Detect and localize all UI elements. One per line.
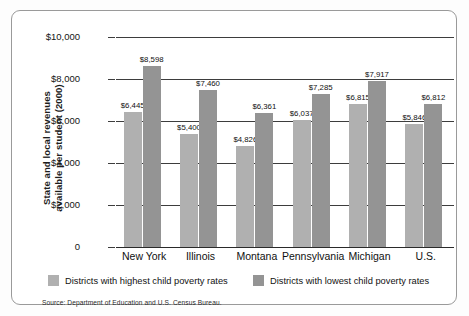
plot-area: 0$2,000$4,000$6,000$8,000$10,000$6,445$8… (116, 37, 454, 247)
bar-value-label: $8,598 (140, 55, 164, 64)
source-note: Source: Department of Education and U.S.… (42, 299, 222, 306)
x-axis-category-label: Michigan (348, 250, 390, 262)
y-axis-tick (108, 163, 115, 164)
y-axis-tick (108, 247, 115, 248)
bar-lowest-poverty[interactable] (255, 113, 273, 247)
bar-highest-poverty[interactable] (180, 134, 198, 247)
y-axis-tick (108, 121, 115, 122)
y-axis-tick-label: $4,000 (20, 157, 80, 168)
bar-value-label: $7,460 (196, 79, 220, 88)
y-axis-tick (108, 205, 115, 206)
legend-label: Districts with highest child poverty rat… (65, 276, 228, 286)
bar-highest-poverty[interactable] (124, 112, 142, 247)
bar-group: $4,826$6,361 (229, 37, 285, 247)
chart-figure: State and local revenues available per s… (0, 0, 469, 316)
bar-highest-poverty[interactable] (236, 146, 254, 247)
x-axis-category-label: Pennsylvania (282, 250, 344, 262)
bar-group: $5,400$7,460 (172, 37, 228, 247)
bar-highest-poverty[interactable] (405, 124, 423, 247)
y-axis-title-line-1: State and local revenues (41, 84, 54, 211)
bar-value-label: $7,917 (365, 70, 389, 79)
y-axis-tick-label: 0 (20, 241, 80, 252)
bar-lowest-poverty[interactable] (143, 66, 161, 247)
bar-value-label: $4,826 (233, 135, 257, 144)
legend-swatch-icon (253, 275, 264, 286)
legend-swatch-icon (48, 275, 59, 286)
bar-group: $6,815$7,917 (341, 37, 397, 247)
bar-group: $6,445$8,598 (116, 37, 172, 247)
x-axis-category-label: Illinois (186, 250, 215, 262)
bar-value-label: $6,361 (252, 102, 276, 111)
bar-value-label: $6,445 (121, 101, 145, 110)
legend-item[interactable]: Districts with lowest child poverty rate… (253, 275, 429, 286)
bar-highest-poverty[interactable] (349, 104, 367, 247)
chart-frame: State and local revenues available per s… (11, 10, 457, 305)
gridline (116, 247, 454, 248)
legend-label: Districts with lowest child poverty rate… (270, 276, 429, 286)
y-axis-tick-label: $8,000 (20, 73, 80, 84)
x-axis-category-label: U.S. (416, 250, 436, 262)
bar-value-label: $6,812 (421, 93, 445, 102)
bar-value-label: $6,037 (290, 109, 314, 118)
bar-group: $5,846$6,812 (398, 37, 454, 247)
y-axis-tick (108, 37, 115, 38)
y-axis-tick-label: $2,000 (20, 199, 80, 210)
bar-lowest-poverty[interactable] (368, 81, 386, 247)
y-axis-tick-label: $10,000 (20, 31, 80, 42)
bar-value-label: $6,815 (346, 93, 370, 102)
chart-legend: Districts with highest child poverty rat… (48, 275, 458, 289)
bar-value-label: $7,285 (309, 83, 333, 92)
x-axis-category-label: New York (122, 250, 166, 262)
legend-item[interactable]: Districts with highest child poverty rat… (48, 275, 228, 286)
bar-value-label: $5,846 (402, 113, 426, 122)
bar-highest-poverty[interactable] (293, 120, 311, 247)
bar-lowest-poverty[interactable] (199, 90, 217, 247)
x-axis-category-label: Montana (236, 250, 277, 262)
y-axis-tick (108, 79, 115, 80)
y-axis-title-line-2: available per student (2000) (53, 84, 66, 211)
bar-value-label: $5,400 (177, 123, 201, 132)
bar-lowest-poverty[interactable] (312, 94, 330, 247)
bar-lowest-poverty[interactable] (424, 104, 442, 247)
y-axis-tick-label: $6,000 (20, 115, 80, 126)
bar-group: $6,037$7,285 (285, 37, 341, 247)
